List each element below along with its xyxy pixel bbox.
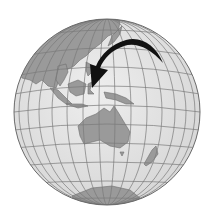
globe-svg	[0, 0, 213, 220]
globe-figure	[0, 0, 213, 220]
